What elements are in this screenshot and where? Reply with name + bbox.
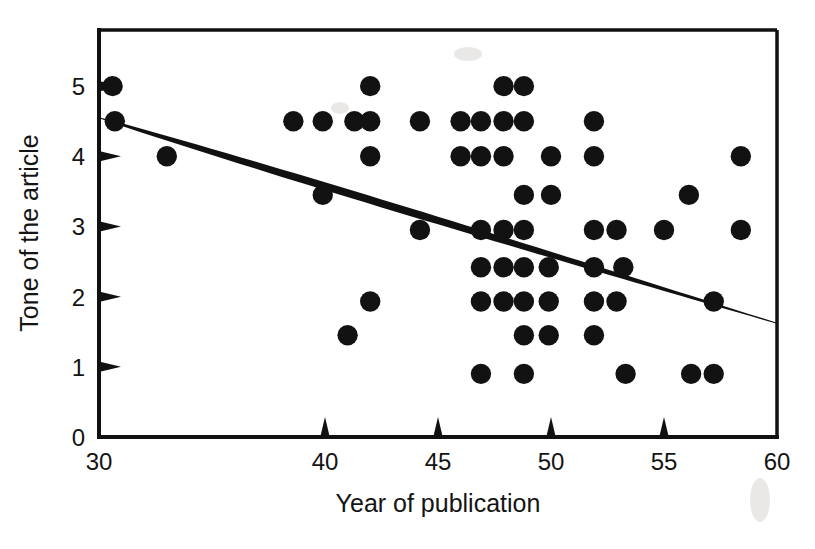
data-point <box>584 220 604 240</box>
data-point-markers <box>102 76 751 384</box>
x-tick-label: 30 <box>86 448 113 475</box>
x-tick-mark <box>660 417 669 436</box>
data-point <box>514 185 534 205</box>
data-point <box>541 185 561 205</box>
y-tick-label: 4 <box>72 143 85 170</box>
x-tick-mark <box>547 417 556 436</box>
data-point <box>471 111 491 131</box>
data-point <box>493 257 513 277</box>
data-point <box>471 220 491 240</box>
data-point <box>584 146 604 166</box>
x-tick-label: 40 <box>312 448 339 475</box>
x-tick-label: 45 <box>425 448 452 475</box>
data-point <box>450 111 470 131</box>
x-tick-mark <box>434 417 443 436</box>
y-tick-label: 5 <box>72 73 85 100</box>
data-point <box>606 291 626 311</box>
y-tick-label: 0 <box>72 424 85 451</box>
y-axis-tick-labels: 012345 <box>72 73 85 451</box>
data-point <box>514 325 534 345</box>
data-point <box>360 111 380 131</box>
data-point <box>471 146 491 166</box>
x-tick-label: 55 <box>651 448 678 475</box>
data-point <box>731 146 751 166</box>
data-point <box>704 364 724 384</box>
y-tick-label: 2 <box>72 284 85 311</box>
data-point <box>102 76 122 96</box>
data-point <box>681 364 701 384</box>
data-point <box>313 111 333 131</box>
data-point <box>493 111 513 131</box>
data-point <box>514 364 534 384</box>
x-tick-mark <box>321 417 330 436</box>
data-point <box>410 111 430 131</box>
data-point <box>704 291 724 311</box>
data-point <box>493 146 513 166</box>
data-point <box>360 291 380 311</box>
data-point <box>514 76 534 96</box>
x-tick-label: 60 <box>764 448 791 475</box>
data-point <box>584 257 604 277</box>
data-point <box>337 325 357 345</box>
y-tick-label: 3 <box>72 213 85 240</box>
data-point <box>313 185 333 205</box>
data-point <box>615 364 635 384</box>
data-point <box>541 146 561 166</box>
y-tick-mark <box>100 221 121 231</box>
data-point <box>514 111 534 131</box>
data-point <box>493 220 513 240</box>
data-point <box>584 291 604 311</box>
data-point <box>613 257 633 277</box>
data-point <box>157 146 177 166</box>
data-point <box>514 220 534 240</box>
data-point <box>450 146 470 166</box>
regression-fit-line <box>99 117 777 324</box>
data-point <box>731 220 751 240</box>
data-point <box>105 111 125 131</box>
y-tick-mark <box>100 292 121 302</box>
x-axis-tick-labels: 304045505560 <box>86 448 791 475</box>
data-point <box>606 220 626 240</box>
data-point <box>471 364 491 384</box>
data-point <box>360 146 380 166</box>
data-point <box>584 111 604 131</box>
data-point <box>584 325 604 345</box>
data-point <box>514 291 534 311</box>
regression-line-band <box>99 117 777 324</box>
y-tick-label: 1 <box>72 354 85 381</box>
data-point <box>514 257 534 277</box>
data-point <box>679 185 699 205</box>
data-point <box>493 76 513 96</box>
x-axis-label: Year of publication <box>336 489 541 517</box>
data-point <box>539 291 559 311</box>
data-point <box>471 257 491 277</box>
data-point <box>471 291 491 311</box>
data-point <box>539 257 559 277</box>
plot-frame <box>99 30 777 437</box>
y-tick-mark <box>100 362 121 372</box>
x-axis-ticks <box>321 417 669 436</box>
y-axis-label: Tone of the article <box>15 134 43 331</box>
data-point <box>654 220 674 240</box>
data-point <box>360 76 380 96</box>
scatter-plot-figure: 304045505560 012345 Year of publication … <box>0 0 815 549</box>
plot-canvas: 304045505560 012345 Year of publication … <box>0 0 815 549</box>
data-point <box>493 291 513 311</box>
data-point <box>283 111 303 131</box>
y-tick-mark <box>100 151 121 161</box>
data-point <box>410 220 430 240</box>
data-point <box>539 325 559 345</box>
x-tick-label: 50 <box>538 448 565 475</box>
